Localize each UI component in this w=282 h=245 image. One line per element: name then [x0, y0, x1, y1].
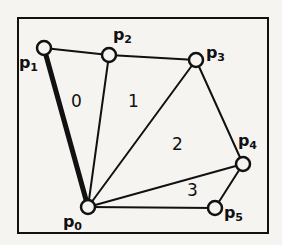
vertex-node-p4: [236, 157, 250, 171]
vertex-node-p2: [102, 48, 116, 62]
subdivision-drawing: [0, 0, 282, 245]
edge-group: [44, 48, 243, 208]
edge-p0-p3: [88, 60, 196, 207]
vertex-group: [37, 41, 250, 215]
edge-p0-p1: [44, 48, 88, 207]
vertex-node-p5: [208, 201, 222, 215]
edge-p0-p5: [88, 207, 215, 208]
edge-p2-p3: [109, 55, 196, 60]
vertex-node-p3: [189, 53, 203, 67]
figure-canvas: p0p1p2p3p4p50123: [0, 0, 282, 245]
edge-p3-p4: [196, 60, 243, 164]
figure-border: [18, 18, 268, 233]
edge-p1-p2: [44, 48, 109, 55]
vertex-node-p0: [81, 200, 95, 214]
vertex-node-p1: [37, 41, 51, 55]
